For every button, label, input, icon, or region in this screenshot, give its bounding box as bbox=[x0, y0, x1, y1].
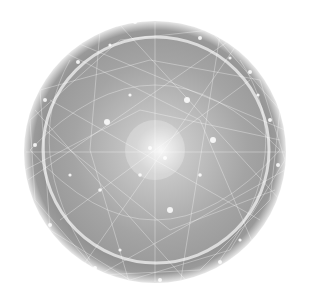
sphere-graphic bbox=[0, 0, 309, 308]
network-sphere-image bbox=[0, 0, 309, 308]
center-glow bbox=[125, 120, 185, 180]
